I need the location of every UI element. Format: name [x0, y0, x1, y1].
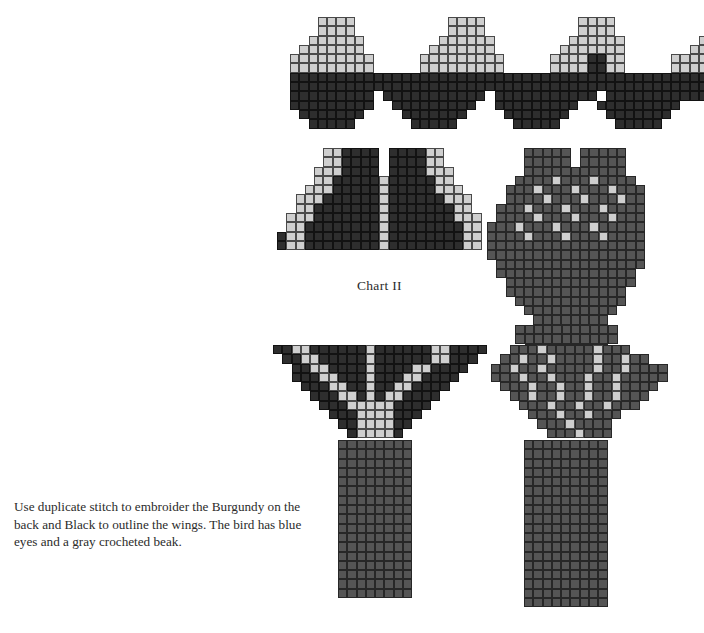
chart-cell: [515, 260, 524, 269]
chart-cell: [416, 232, 425, 241]
chart-cell: [617, 306, 626, 315]
chart-cell: [589, 194, 598, 203]
chart-cell: [375, 524, 384, 533]
chart-cell: [347, 364, 356, 373]
chart-cell: [347, 552, 356, 561]
chart-cell: [561, 185, 570, 194]
chart-cell: [533, 579, 542, 588]
chart-cell: [561, 440, 570, 449]
chart-cell: [630, 354, 639, 363]
chart-cell: [374, 63, 383, 72]
chart-cell: [570, 598, 579, 607]
chart-cell: [515, 334, 524, 343]
chart-cell: [440, 354, 449, 363]
chart-cell: [336, 101, 345, 110]
chart-cell: [552, 176, 561, 185]
chart-cell: [476, 17, 485, 26]
chart-cell: [532, 119, 541, 128]
chart-cell: [439, 17, 448, 26]
chart-cell: [319, 410, 328, 419]
chart-cell: [282, 410, 291, 419]
chart-cell: [571, 306, 580, 315]
chart-cell: [448, 54, 457, 63]
chart-cell: [580, 459, 589, 468]
chart-cell: [519, 382, 528, 391]
chart-cell: [336, 119, 345, 128]
chart-cell: [617, 287, 626, 296]
chart-cell: [296, 232, 305, 241]
chart-cell: [431, 419, 440, 428]
chart-cell: [680, 54, 689, 63]
chart-cell: [615, 91, 624, 100]
chart-cell: [403, 459, 412, 468]
chart-cell: [519, 429, 528, 438]
chart-cell: [640, 354, 649, 363]
chart-cell: [570, 579, 579, 588]
chart-cell: [431, 354, 440, 363]
chart-cell: [543, 213, 552, 222]
chart-cell: [290, 63, 299, 72]
chart-cell: [580, 468, 589, 477]
chart-cell: [375, 589, 384, 598]
chart-cell: [420, 110, 429, 119]
chart-cell: [459, 354, 468, 363]
chart-cell: [599, 260, 608, 269]
chart-cell: [301, 354, 310, 363]
chart-cell: [634, 26, 643, 35]
chart-cell: [584, 354, 593, 363]
chart-cell: [560, 101, 569, 110]
chart-cell: [634, 101, 643, 110]
chart-cell: [357, 477, 366, 486]
chart-cell: [389, 194, 398, 203]
chart-cell: [524, 204, 533, 213]
chart-cell: [608, 297, 617, 306]
chart-cell: [528, 382, 537, 391]
chart-cell: [603, 373, 612, 382]
chart-cell: [402, 54, 411, 63]
chart-cell: [522, 63, 531, 72]
chart-cell: [569, 91, 578, 100]
chart-cell: [608, 269, 617, 278]
chart-cell: [299, 73, 308, 82]
chart-cell: [578, 36, 587, 45]
chart-cell: [346, 26, 355, 35]
chart-cell: [318, 54, 327, 63]
chart-cell: [457, 17, 466, 26]
chart-cell: [448, 63, 457, 72]
chart-cell: [384, 496, 393, 505]
chart-cell: [476, 26, 485, 35]
chart-cell: [541, 110, 550, 119]
chart-cell: [491, 429, 500, 438]
chart-cell: [342, 204, 351, 213]
chart-cell: [375, 514, 384, 523]
chart-cell: [347, 496, 356, 505]
chart-cell: [533, 297, 542, 306]
chart-cell: [570, 589, 579, 598]
chart-cell: [522, 119, 531, 128]
chart-cell: [309, 91, 318, 100]
chart-cell: [625, 82, 634, 91]
chart-cell: [524, 477, 533, 486]
chart-cell: [662, 73, 671, 82]
chart-cell: [338, 419, 347, 428]
chart-cell: [314, 241, 323, 250]
chart-cell: [351, 157, 360, 166]
chart-cell: [533, 278, 542, 287]
chart-row: [487, 176, 645, 185]
chart-cell: [385, 391, 394, 400]
chart-cell: [524, 533, 533, 542]
chart-cell: [347, 505, 356, 514]
chart-cell: [457, 82, 466, 91]
chart-row: [290, 119, 704, 128]
chart-row: [487, 287, 645, 296]
chart-cell: [411, 54, 420, 63]
chart-cell: [584, 401, 593, 410]
chart-cell: [487, 213, 496, 222]
chart-cell: [543, 505, 552, 514]
chart-cell: [543, 232, 552, 241]
chart-cell: [277, 213, 286, 222]
chart-cell: [440, 382, 449, 391]
chart-cell: [504, 73, 513, 82]
chart-cell: [286, 157, 295, 166]
chart-cell: [565, 429, 574, 438]
